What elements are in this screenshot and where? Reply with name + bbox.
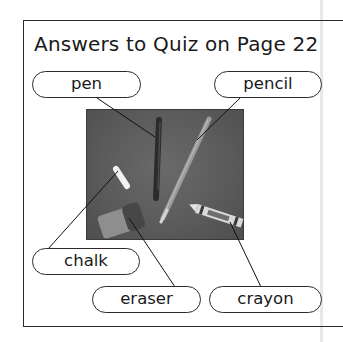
label-eraser-text: eraser (120, 289, 173, 308)
label-crayon-text: crayon (237, 289, 293, 308)
label-pen-text: pen (71, 74, 102, 93)
label-pencil-text: pencil (243, 74, 292, 93)
label-chalk-text: chalk (64, 251, 108, 270)
label-chalk: chalk (32, 248, 140, 275)
pencil-leader-line (197, 98, 240, 140)
chalk-leader-line (48, 171, 118, 249)
label-pencil: pencil (214, 71, 322, 98)
crayon-leader-line (230, 222, 261, 287)
pen-leader-line (97, 98, 155, 137)
label-crayon: crayon (209, 286, 322, 313)
label-eraser: eraser (92, 286, 201, 313)
label-pen: pen (32, 71, 141, 98)
